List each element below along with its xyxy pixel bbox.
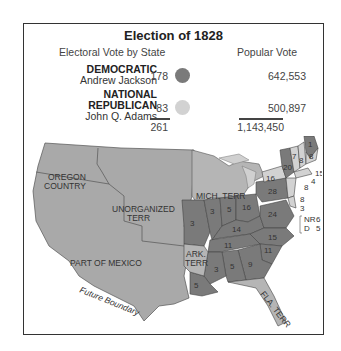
map-title: Election of 1828 bbox=[24, 28, 323, 43]
legend-democratic: DEMOCRATIC Andrew Jackson bbox=[80, 64, 157, 86]
votes-virginia: 24 bbox=[268, 210, 277, 219]
votes-new-york-jackson: 20 bbox=[283, 163, 292, 172]
legend-national-republican: NATIONAL REPUBLICAN John Q. Adams bbox=[85, 89, 157, 122]
votes-maine-jackson: 1 bbox=[308, 140, 313, 149]
election-map-panel: Election of 1828 Electoral Vote by State… bbox=[23, 23, 324, 335]
popular-votes-total: 1,143,450 bbox=[232, 121, 284, 133]
democratic-color-swatch bbox=[175, 68, 190, 83]
votes-louisiana: 5 bbox=[194, 281, 199, 290]
label-unorganized-2: TERR bbox=[127, 213, 150, 223]
western-territories bbox=[33, 143, 194, 321]
label-mexico: PART OF MEXICO bbox=[70, 258, 142, 268]
popular-votes-democratic: 642,553 bbox=[254, 70, 306, 82]
label-maryland-d: D bbox=[304, 224, 310, 233]
votes-connecticut: 8 bbox=[304, 183, 309, 192]
votes-alabama: 5 bbox=[230, 262, 235, 271]
electoral-votes-national-republican: 83 bbox=[148, 102, 168, 114]
national-republican-color-swatch bbox=[175, 100, 190, 115]
votes-massachusetts: 15 bbox=[315, 169, 322, 178]
votes-maryland-nr: 6 bbox=[316, 215, 321, 224]
votes-north-carolina: 15 bbox=[268, 233, 277, 242]
state-new-jersey bbox=[286, 178, 296, 198]
votes-tennessee: 11 bbox=[224, 241, 233, 250]
votes-vermont: 7 bbox=[292, 152, 297, 161]
electoral-total-rule bbox=[150, 118, 170, 120]
votes-maryland-d: 5 bbox=[316, 224, 321, 233]
votes-kentucky: 14 bbox=[232, 225, 241, 234]
label-arkansas-2: TERR bbox=[185, 258, 208, 268]
electoral-vote-header: Electoral Vote by State bbox=[59, 46, 165, 58]
electoral-votes-democratic: 178 bbox=[148, 70, 168, 82]
label-michigan: MICH. TERR bbox=[196, 191, 245, 201]
votes-illinois: 3 bbox=[210, 207, 215, 216]
votes-rhode-island: 4 bbox=[311, 177, 316, 186]
votes-delaware: 3 bbox=[300, 204, 305, 213]
candidate-name: John Q. Adams bbox=[85, 111, 157, 122]
votes-new-hampshire: 8 bbox=[299, 156, 304, 165]
votes-missouri: 3 bbox=[190, 219, 195, 228]
votes-pennsylvania: 28 bbox=[268, 187, 277, 196]
state-virginia bbox=[260, 200, 294, 228]
us-map-1828: OREGON COUNTRY UNORGANIZED TERR PART OF … bbox=[24, 136, 322, 334]
votes-mississippi: 3 bbox=[214, 265, 219, 274]
electoral-votes-total: 261 bbox=[148, 121, 168, 133]
votes-new-jersey: 8 bbox=[300, 195, 305, 204]
popular-vote-header: Popular Vote bbox=[237, 46, 297, 58]
votes-ohio: 16 bbox=[242, 203, 251, 212]
votes-indiana: 5 bbox=[227, 205, 232, 214]
popular-total-rule bbox=[239, 118, 283, 120]
popular-votes-national-republican: 500,897 bbox=[254, 102, 306, 114]
votes-georgia: 9 bbox=[248, 260, 253, 269]
maryland-bracket bbox=[300, 216, 302, 233]
votes-maine-adams: 8 bbox=[309, 152, 314, 161]
votes-south-carolina: 11 bbox=[264, 246, 273, 255]
label-florida: FLA. TERR bbox=[258, 289, 293, 329]
candidate-name: Andrew Jackson bbox=[80, 75, 157, 86]
label-oregon-2: COUNTRY bbox=[44, 181, 86, 191]
label-maryland-nr: NR bbox=[304, 215, 316, 224]
votes-new-york-adams: 16 bbox=[266, 174, 275, 183]
